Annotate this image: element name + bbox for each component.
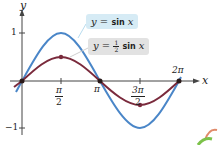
y-tick-label-1: 1 xyxy=(11,28,17,37)
x-tick-label-pi: π xyxy=(94,85,100,94)
decorative-sprout-icon xyxy=(198,139,212,145)
legend-sin-x: y = sin x xyxy=(86,14,138,29)
y-tick-label-neg1: −1 xyxy=(5,123,18,132)
x-axis-label: x xyxy=(202,75,208,86)
point-pi xyxy=(98,79,103,84)
legend-sin-leader xyxy=(78,24,86,38)
point-origin xyxy=(20,79,25,84)
x-tick-label-2pi: 2π xyxy=(172,66,184,75)
legend-half-sin-x: y = 12 sin x xyxy=(88,38,149,55)
x-tick-label-3pi-over-2: 3π2 xyxy=(131,86,145,107)
x-tick-label-pi-over-2: π2 xyxy=(55,86,63,107)
point-2pi xyxy=(177,79,182,84)
x-axis-arrow-icon xyxy=(193,79,200,84)
point-pi-over-2 xyxy=(59,55,63,59)
y-axis-label: y xyxy=(20,0,26,11)
